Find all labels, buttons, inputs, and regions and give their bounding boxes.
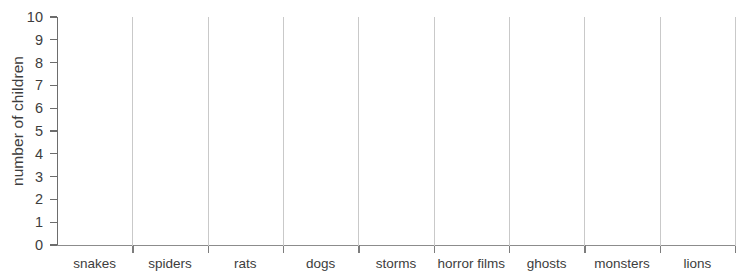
x-category-label: snakes	[51, 256, 138, 272]
x-tick-mark	[208, 245, 209, 253]
y-tick-label: 4	[17, 147, 43, 162]
y-tick-mark	[50, 130, 57, 131]
y-axis-line	[57, 17, 58, 246]
x-tick-mark	[509, 245, 510, 253]
x-category-label: dogs	[277, 256, 364, 272]
category-gridline	[660, 17, 661, 246]
y-tick-label: 6	[17, 101, 43, 116]
y-tick-mark	[50, 62, 57, 63]
x-axis-line	[57, 245, 736, 246]
y-tick-label: 8	[17, 56, 43, 71]
x-tick-mark	[735, 245, 736, 253]
y-tick-label: 5	[17, 124, 43, 139]
y-tick-mark	[50, 153, 57, 154]
x-category-label: storms	[352, 256, 439, 272]
category-gridline	[434, 17, 435, 246]
x-category-label: rats	[202, 256, 289, 272]
x-category-label: monsters	[578, 256, 665, 272]
category-gridline	[358, 17, 359, 246]
y-tick-mark	[50, 222, 57, 223]
x-category-label: spiders	[126, 256, 213, 272]
x-tick-mark	[283, 245, 284, 253]
category-gridline	[509, 17, 510, 246]
category-gridline	[132, 17, 133, 246]
x-tick-mark	[358, 245, 359, 253]
y-tick-mark	[50, 108, 57, 109]
y-tick-mark	[50, 39, 57, 40]
category-gridline	[208, 17, 209, 246]
y-tick-mark	[50, 85, 57, 86]
y-tick-label: 1	[17, 215, 43, 230]
category-gridline	[283, 17, 284, 246]
x-category-label: ghosts	[503, 256, 590, 272]
y-tick-label: 2	[17, 192, 43, 207]
category-gridline	[735, 17, 736, 246]
bar-chart: number of children 109876543210 snakessp…	[0, 0, 746, 280]
y-tick-mark	[50, 244, 57, 245]
x-tick-mark	[434, 245, 435, 253]
y-tick-label: 0	[17, 238, 43, 253]
y-tick-mark	[50, 199, 57, 200]
x-category-label: horror films	[428, 256, 515, 272]
x-tick-mark	[584, 245, 585, 253]
y-tick-label: 3	[17, 170, 43, 185]
y-tick-label: 10	[17, 10, 43, 25]
x-category-label: lions	[654, 256, 741, 272]
x-tick-mark	[132, 245, 133, 253]
x-tick-mark	[660, 245, 661, 253]
y-tick-mark	[50, 16, 57, 17]
category-gridline	[584, 17, 585, 246]
y-tick-label: 7	[17, 78, 43, 93]
y-tick-mark	[50, 176, 57, 177]
y-tick-label: 9	[17, 33, 43, 48]
